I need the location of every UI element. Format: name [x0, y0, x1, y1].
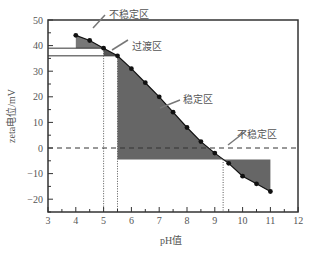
svg-text:稳定区: 稳定区: [183, 93, 213, 105]
svg-text:不稳定区: 不稳定区: [237, 128, 277, 140]
svg-text:10: 10: [238, 215, 248, 226]
svg-text:9: 9: [212, 215, 217, 226]
svg-text:−20: −20: [27, 194, 43, 205]
svg-text:4: 4: [73, 215, 78, 226]
svg-text:zeta电位/mV: zeta电位/mV: [5, 88, 17, 143]
svg-text:10: 10: [33, 117, 43, 128]
chart: 3456789101112−20−1001020304050pH值zeta电位/…: [0, 0, 315, 255]
zeta-ph-chart: 3456789101112−20−1001020304050pH值zeta电位/…: [0, 0, 315, 255]
svg-text:40: 40: [33, 40, 43, 51]
svg-text:不稳定区: 不稳定区: [109, 8, 149, 20]
svg-text:50: 50: [33, 15, 43, 26]
svg-text:7: 7: [157, 215, 162, 226]
svg-text:3: 3: [46, 215, 51, 226]
svg-text:过渡区: 过渡区: [132, 40, 162, 52]
svg-text:30: 30: [33, 66, 43, 77]
svg-text:6: 6: [129, 215, 134, 226]
svg-text:20: 20: [33, 91, 43, 102]
svg-text:0: 0: [38, 143, 43, 154]
svg-text:12: 12: [293, 215, 303, 226]
svg-text:11: 11: [266, 215, 276, 226]
svg-text:−10: −10: [27, 168, 43, 179]
svg-text:8: 8: [185, 215, 190, 226]
svg-text:pH值: pH值: [160, 234, 182, 246]
svg-text:5: 5: [101, 215, 106, 226]
